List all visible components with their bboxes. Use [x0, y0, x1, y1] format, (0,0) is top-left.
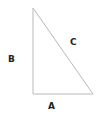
- label-b: B: [8, 54, 15, 64]
- label-c: C: [70, 37, 77, 47]
- label-a: A: [48, 101, 55, 111]
- triangle: [33, 8, 93, 94]
- side-c-line: [33, 8, 93, 94]
- triangle-diagram: B C A: [0, 0, 102, 118]
